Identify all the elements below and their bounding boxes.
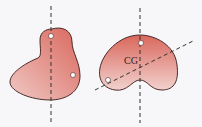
left-suspension-point-2 bbox=[71, 73, 76, 78]
left-kidney-shape bbox=[10, 28, 80, 100]
right-body: CG bbox=[95, 8, 195, 123]
cg-label: CG bbox=[124, 55, 138, 66]
right-suspension-point-2 bbox=[106, 78, 111, 83]
left-suspension-point-1 bbox=[49, 34, 54, 39]
left-body bbox=[10, 6, 80, 123]
right-suspension-point-1 bbox=[139, 41, 144, 46]
cg-diagram: CG bbox=[0, 0, 202, 127]
